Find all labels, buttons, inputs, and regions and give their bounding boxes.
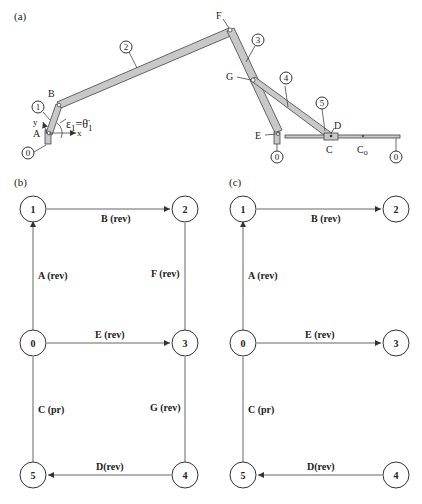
svg-text:1: 1 — [241, 204, 246, 215]
graph-node-3: 3 — [172, 330, 198, 356]
svg-text:2: 2 — [183, 204, 188, 215]
edge-label-b: B (rev) — [101, 213, 131, 225]
joint-f — [228, 28, 232, 32]
joint-label-g: G — [226, 71, 233, 82]
svg-text:1: 1 — [36, 102, 41, 112]
edge-label-d: D(rev) — [96, 461, 124, 473]
edge-label-g: G (rev) — [150, 402, 181, 414]
joint-label-c: C — [326, 144, 333, 155]
figure: (a) x y ε1=θ̈1 A B — [0, 0, 422, 504]
joint-label-d: D — [334, 120, 341, 131]
graph-node-1: 1 — [20, 196, 46, 222]
edge-label-a: A (rev) — [248, 270, 278, 282]
panel-c: (c) B (rev) A (rev) E (rev) C (pr) D(rev… — [229, 176, 409, 488]
joint-label-e: E — [255, 130, 261, 141]
f-leader — [223, 19, 229, 28]
edge-label-a: A (rev) — [38, 270, 68, 282]
svg-text:2: 2 — [394, 204, 399, 215]
joint-g — [251, 78, 255, 82]
svg-text:4: 4 — [183, 470, 188, 481]
panel-b-label: (b) — [14, 176, 27, 189]
joint-e — [277, 133, 280, 136]
edge-label-e: E (rev) — [305, 329, 335, 341]
link-number-3: 3 — [246, 34, 264, 62]
joint-b — [57, 103, 61, 107]
graph-node-3: 3 — [383, 330, 409, 356]
svg-text:4: 4 — [284, 73, 289, 83]
link-1 — [46, 104, 62, 135]
joint-label-a: A — [33, 128, 41, 139]
panel-b: (b) B (rev) A (rev) F (rev) E (rev) C (p… — [14, 176, 198, 488]
edge-label-c: C (pr) — [248, 404, 274, 416]
edge-label-b: B (rev) — [311, 213, 341, 225]
panel-a: (a) x y ε1=θ̈1 A B — [14, 10, 402, 163]
svg-text:0: 0 — [241, 338, 246, 349]
graph-node-0: 0 — [20, 330, 46, 356]
graph-node-1: 1 — [230, 196, 256, 222]
link-number-0b: 0 — [271, 144, 283, 163]
svg-text:3: 3 — [256, 35, 261, 45]
angular-accel-arc — [57, 123, 62, 138]
svg-text:0: 0 — [26, 148, 31, 158]
svg-text:5: 5 — [31, 470, 36, 481]
link-number-0c: 0 — [390, 138, 402, 163]
svg-text:5: 5 — [320, 98, 325, 108]
graph-node-2: 2 — [383, 196, 409, 222]
point-label-co: Co — [357, 144, 368, 157]
edge-label-e: E (rev) — [95, 329, 125, 341]
svg-text:2: 2 — [124, 42, 129, 52]
link-number-0a: 0 — [22, 145, 46, 159]
graph-node-2: 2 — [172, 196, 198, 222]
svg-text:0: 0 — [275, 152, 280, 162]
svg-text:4: 4 — [394, 470, 399, 481]
svg-text:1: 1 — [31, 204, 36, 215]
svg-text:3: 3 — [394, 338, 399, 349]
joint-label-f: F — [216, 10, 222, 21]
point-co — [362, 135, 364, 137]
svg-text:5: 5 — [241, 470, 246, 481]
graph-node-5: 5 — [230, 462, 256, 488]
svg-text:3: 3 — [183, 338, 188, 349]
graph-node-0: 0 — [230, 330, 256, 356]
link-number-2: 2 — [120, 41, 137, 68]
svg-text:0: 0 — [394, 152, 399, 162]
joint-d — [330, 135, 333, 138]
graph-node-4: 4 — [172, 462, 198, 488]
panel-c-label: (c) — [229, 176, 242, 189]
joint-label-b: B — [48, 88, 55, 99]
edge-label-f: F (rev) — [151, 268, 180, 280]
y-axis-label: y — [33, 117, 38, 127]
accel-symbol: ε1=θ̈1 — [66, 117, 93, 133]
link-2 — [57, 28, 233, 108]
edge-label-c: C (pr) — [38, 404, 64, 416]
panel-a-label: (a) — [14, 10, 27, 23]
svg-text:0: 0 — [31, 338, 36, 349]
graph-node-5: 5 — [20, 462, 46, 488]
graph-node-4: 4 — [383, 462, 409, 488]
edge-label-d: D(rev) — [307, 461, 335, 473]
slider-guide — [285, 135, 400, 138]
